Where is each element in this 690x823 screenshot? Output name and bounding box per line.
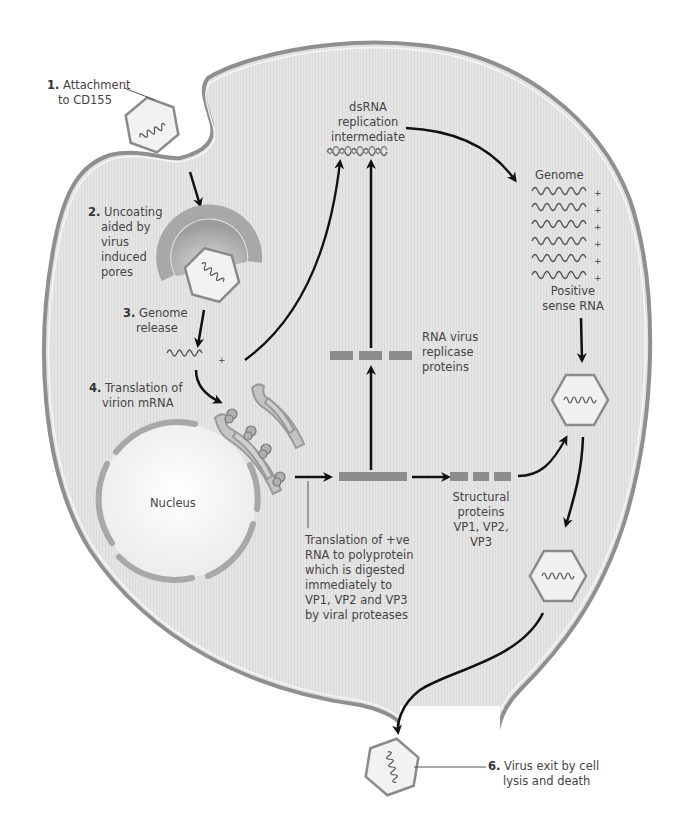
step-3-label: 3. Genome release	[123, 306, 188, 336]
step-1-label: 1. Attachment to CD155	[47, 78, 130, 108]
structural-proteins-label: Structural proteins VP1, VP2, VP3	[440, 490, 522, 550]
dsrna-label: dsRNA replication intermediate	[318, 100, 418, 145]
translation-note: Translation of +ve RNA to polyprotein wh…	[305, 533, 414, 623]
replicase-proteins	[330, 351, 412, 360]
step-4-label: 4. Translation of virion mRNA	[89, 381, 182, 411]
step-2-label: 2. Uncoating aided by virus induced pore…	[88, 205, 162, 280]
rna-plus-sign: +	[218, 353, 226, 368]
arrow-to-assembly	[581, 318, 582, 360]
replicase-label: RNA virus replicase proteins	[422, 330, 478, 375]
virion-assembled	[552, 375, 608, 425]
polyprotein-bar	[339, 472, 407, 481]
virion-mature	[530, 551, 586, 601]
structural-proteins	[450, 472, 511, 481]
step-6-label: 6. Virus exit by cell lysis and death	[488, 759, 599, 789]
genome-title: Genome	[535, 168, 584, 183]
nucleus-label: Nucleus	[150, 496, 196, 511]
positive-sense-label: Positive sense RNA	[528, 284, 618, 314]
